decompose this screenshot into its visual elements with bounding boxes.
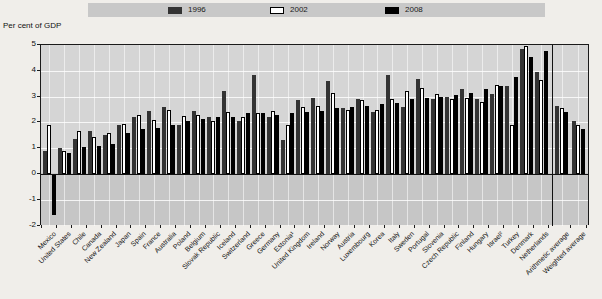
x-tick-mark-21 (354, 225, 355, 228)
bar-2002-sweden (405, 91, 409, 174)
bar-1996-germany (267, 117, 271, 174)
bar-1996-australia (162, 107, 166, 174)
bar-2002-netherlands (539, 80, 543, 174)
y-tick-mark-1 (37, 147, 40, 148)
x-tick-mark-6 (130, 225, 131, 228)
bar-2002-belgium (196, 115, 200, 174)
bar-2002-austria (346, 110, 350, 175)
bar-2002-slovak-republic (211, 121, 215, 174)
bar-1996-estonia (281, 140, 285, 174)
bar-1996-austria (341, 108, 345, 174)
x-tick-mark-13 (235, 225, 236, 228)
bar-1996-iceland (222, 91, 226, 174)
x-tick-mark-28 (458, 225, 459, 228)
bar-2008-japan (126, 133, 130, 174)
bar-2002-weighted-average (576, 125, 580, 174)
legend-item-2002: 2002 (270, 6, 308, 14)
bar-1996-finland (460, 89, 464, 174)
x-tick-mark-25 (414, 225, 415, 228)
x-tick-mark-7 (145, 225, 146, 228)
x-tick-mark-12 (220, 225, 221, 228)
bar-1996-canada (88, 131, 92, 174)
y-tick-label--2: -2 (22, 221, 36, 229)
bar-1996-united-kingdom (296, 100, 300, 174)
x-tick-mark-33 (533, 225, 534, 228)
y-tick-mark--1 (37, 199, 40, 200)
x-tick-mark-10 (190, 225, 191, 228)
bar-2008-belgium (201, 119, 205, 174)
y-tick-label-0: 0 (22, 169, 36, 177)
bar-1996-poland (177, 125, 181, 174)
bar-1996-switzerland (237, 121, 241, 174)
x-tick-mark-14 (250, 225, 251, 228)
bar-1996-norway (326, 81, 330, 174)
bar-1996-italy (386, 75, 390, 174)
x-tick-mark-5 (116, 225, 117, 228)
bar-2002-luxembourg (360, 100, 364, 174)
legend-swatch-2002 (270, 7, 284, 14)
bar-2008-hungary (484, 89, 488, 174)
x-tick-mark-16 (280, 225, 281, 228)
bar-2008-slovenia (439, 97, 443, 174)
zero-axis-line (41, 174, 588, 175)
y-tick-label-2: 2 (22, 117, 36, 125)
bar-2002-ireland (316, 106, 320, 174)
bar-1996-slovak-republic (207, 117, 211, 174)
x-tick-mark-2 (71, 225, 72, 228)
y-tick-mark-3 (37, 96, 40, 97)
bar-1996-turkey (505, 86, 509, 174)
bar-2008-arithmetic-average (564, 112, 568, 174)
bar-1996-greece (252, 75, 256, 174)
bar-2008-slovak-republic (216, 117, 220, 174)
x-tick-mark-29 (473, 225, 474, 228)
bar-2008-luxembourg (365, 106, 369, 174)
bar-2002-germany (271, 111, 275, 174)
bar-2008-australia (171, 125, 175, 174)
bar-2008-greece (261, 113, 265, 174)
bar-2002-chile (77, 131, 81, 174)
y-tick-mark-2 (37, 121, 40, 122)
y-tick-mark-0 (37, 173, 40, 174)
bar-1996-new-zealand (103, 135, 107, 174)
bar-1996-sweden (401, 107, 405, 174)
bar-1996-hungary (475, 99, 479, 174)
bar-2002-united-states (62, 151, 66, 174)
bar-2002-israel (495, 85, 499, 174)
legend-label-1996: 1996 (188, 6, 206, 14)
bar-2008-norway (335, 108, 339, 174)
bar-2008-iceland (231, 117, 235, 174)
bar-2008-canada (97, 146, 101, 174)
bar-2002-australia (167, 110, 171, 175)
x-tick-mark-30 (488, 225, 489, 228)
bar-1996-netherlands (535, 72, 539, 174)
legend-item-2008: 2008 (385, 6, 423, 14)
bar-1996-slovenia (431, 99, 435, 174)
bar-2002-spain (137, 115, 141, 174)
legend-label-2008: 2008 (405, 6, 423, 14)
bar-2008-ireland (320, 111, 324, 174)
bar-2008-poland (186, 121, 190, 174)
bar-1996-united-states (58, 148, 62, 174)
bar-2002-czech-republic (450, 99, 454, 174)
bar-2008-finland (469, 93, 473, 174)
bar-2008-france (156, 128, 160, 174)
bar-2002-portugal (420, 88, 424, 174)
y-tick-label-5: 5 (22, 40, 36, 48)
bar-1996-ireland (311, 98, 315, 174)
bar-2008-germany (275, 115, 279, 174)
bar-2002-iceland (226, 112, 230, 174)
x-tick-mark-23 (384, 225, 385, 228)
bar-1996-korea (371, 112, 375, 174)
bar-2008-new-zealand (111, 144, 115, 174)
x-tick-mark-32 (518, 225, 519, 228)
bar-2002-switzerland (241, 117, 245, 174)
y-tick-mark-5 (37, 44, 40, 45)
bar-2002-hungary (480, 102, 484, 174)
bar-1996-mexico (43, 151, 47, 174)
y-tick-mark--2 (37, 225, 40, 226)
x-tick-mark-27 (444, 225, 445, 228)
bar-2008-united-states (67, 153, 71, 174)
x-tick-mark-20 (339, 225, 340, 228)
legend: 199620022008 (88, 3, 545, 17)
x-tick-mark-8 (160, 225, 161, 228)
